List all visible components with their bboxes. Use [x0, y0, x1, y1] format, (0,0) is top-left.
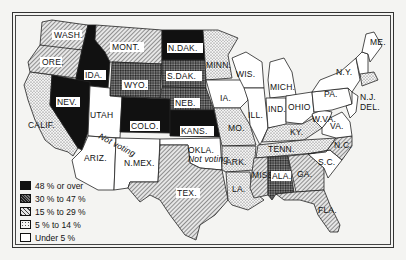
label-mich: MICH.	[270, 82, 295, 92]
label-ark: ARK.	[226, 157, 247, 167]
legend-item-48-or-over: 48 % or over	[20, 179, 86, 192]
label-kans: KANS.	[181, 126, 208, 136]
label-ohio: OHIO	[288, 102, 311, 112]
label-wis: WIS.	[236, 69, 255, 79]
label-ida: IDA.	[85, 70, 102, 80]
label-va: VA.	[330, 121, 344, 131]
label-wyo: WYO.	[124, 80, 147, 90]
legend-item-30-to-47: 30 % to 47 %	[20, 192, 86, 205]
label-tex: TEX.	[177, 188, 197, 198]
legend-item-under-5: Under 5 %	[20, 231, 86, 244]
legend-swatch-black	[20, 181, 31, 190]
label-wash: WASH.	[54, 30, 83, 40]
label-ind: IND.	[268, 104, 286, 114]
label-ore: ORE.	[42, 57, 64, 67]
label-me: ME.	[370, 37, 386, 47]
label-pa: PA.	[324, 89, 338, 99]
state-mass	[360, 72, 378, 86]
label-okla-not-voting: Not voting	[188, 154, 228, 164]
legend-label: 48 % or over	[35, 181, 83, 191]
label-del: DEL.	[360, 102, 380, 112]
legend-label: 30 % to 47 %	[35, 194, 86, 204]
state-mich	[268, 58, 296, 98]
legend-swatch-hatch	[20, 207, 31, 216]
legend-item-5-to-14: 5 % to 14 %	[20, 218, 86, 231]
legend-swatch-dots	[20, 220, 31, 229]
legend-swatch-white	[20, 233, 31, 242]
map-legend: 48 % or over 30 % to 47 % 15 % to 29 % 5…	[20, 179, 86, 244]
label-nj: N.J.	[360, 92, 376, 102]
state-minn	[203, 30, 238, 80]
label-minn: MINN.	[206, 60, 231, 70]
label-ny: N.Y.	[336, 67, 352, 77]
label-ky: KY.	[290, 127, 303, 137]
label-nev: NEV.	[57, 97, 77, 107]
label-colo: COLO.	[131, 121, 158, 131]
label-neb: NEB.	[175, 98, 196, 108]
legend-label: Under 5 %	[35, 233, 75, 243]
legend-item-15-to-29: 15 % to 29 %	[20, 205, 86, 218]
label-ill: ILL.	[248, 110, 263, 120]
label-ndak: N.DAK.	[168, 43, 198, 53]
label-utah: UTAH	[90, 110, 113, 120]
label-ala: ALA.	[272, 171, 291, 181]
legend-label: 15 % to 29 %	[35, 207, 86, 217]
label-ia: IA.	[220, 93, 231, 103]
label-mont: MONT.	[112, 42, 139, 52]
label-fla: FLA.	[318, 205, 337, 215]
label-la: LA.	[232, 184, 245, 194]
label-calif: CALIF.	[28, 120, 55, 130]
label-mo: MO.	[228, 123, 245, 133]
legend-swatch-crosshatch	[20, 194, 31, 203]
label-nmex: N.MEX.	[124, 158, 154, 168]
label-ariz: ARIZ.	[84, 153, 107, 163]
legend-label: 5 % to 14 %	[35, 220, 81, 230]
label-tenn: TENN.	[268, 144, 295, 154]
label-nc: N.C.	[334, 140, 352, 150]
label-ga: GA.	[297, 169, 312, 179]
label-sc: S.C.	[318, 157, 335, 167]
label-sdak: S.DAK.	[167, 71, 196, 81]
